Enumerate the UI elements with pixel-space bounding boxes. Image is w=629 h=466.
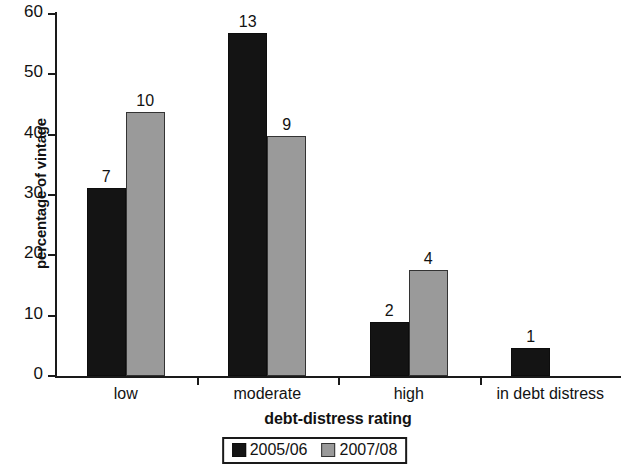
y-tick-label: 30 (24, 183, 43, 203)
x-axis-category-label: low (55, 385, 197, 403)
chart-legend: 2005/062007/08 (222, 437, 408, 464)
y-tick-mark (48, 254, 55, 256)
legend-label: 2007/08 (340, 441, 398, 459)
bar: 1 (511, 348, 550, 376)
y-tick-mark (48, 194, 55, 196)
y-tick-mark (48, 134, 55, 136)
x-axis-category-label: high (338, 385, 480, 403)
legend-label: 2005/06 (250, 441, 308, 459)
y-tick-mark (48, 13, 55, 15)
x-tick-mark (338, 378, 340, 385)
bar: 9 (267, 136, 306, 376)
bar: 2 (370, 322, 409, 376)
legend-swatch (322, 443, 336, 457)
legend-swatch (232, 443, 246, 457)
y-tick-mark (48, 315, 55, 317)
bar-value-label: 10 (136, 92, 154, 110)
y-tick-label: 20 (24, 243, 43, 263)
bar-chart: percentage of vintage 0102030405060 7101… (0, 0, 629, 466)
bar: 4 (409, 270, 448, 376)
legend-item: 2005/06 (232, 441, 308, 459)
y-tick-label: 50 (24, 62, 43, 82)
x-tick-mark (480, 378, 482, 385)
bar-value-label: 9 (282, 116, 291, 134)
bar-value-label: 4 (424, 250, 433, 268)
bar-value-label: 7 (102, 168, 111, 186)
y-tick-label: 10 (24, 304, 43, 324)
y-tick-label: 0 (34, 364, 43, 384)
bar: 10 (126, 112, 165, 376)
x-tick-mark (197, 378, 199, 385)
bar: 13 (228, 33, 267, 376)
bar-value-label: 1 (526, 328, 535, 346)
plot-area: 710139241 (55, 14, 621, 376)
bar-value-label: 13 (239, 13, 257, 31)
x-axis-category-label: in debt distress (480, 385, 622, 403)
x-axis-category-label: moderate (197, 385, 339, 403)
bar-value-label: 2 (385, 302, 394, 320)
y-tick-mark (48, 375, 55, 377)
y-tick-mark (48, 73, 55, 75)
bar: 7 (87, 188, 126, 376)
y-tick-label: 40 (24, 123, 43, 143)
y-tick-label: 60 (24, 2, 43, 22)
x-axis-title: debt-distress rating (55, 410, 621, 428)
legend-item: 2007/08 (322, 441, 398, 459)
